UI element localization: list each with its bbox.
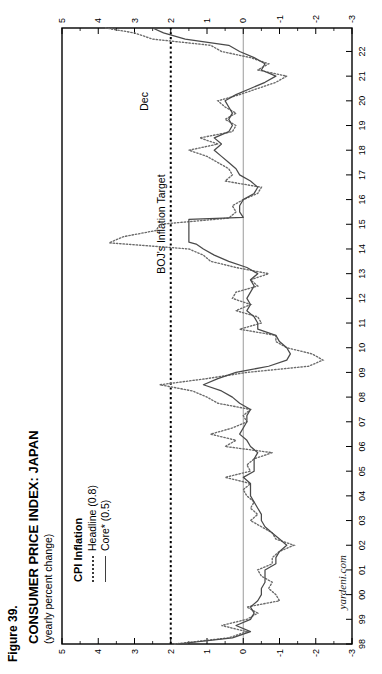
svg-text:12: 12	[357, 293, 367, 303]
svg-text:98: 98	[357, 639, 367, 649]
rotated-page-wrapper: Figure 39. CONSUMER PRICE INDEX: JAPAN (…	[0, 0, 382, 674]
series-core	[153, 28, 291, 644]
svg-text:3: 3	[130, 18, 140, 23]
svg-text:04: 04	[357, 491, 367, 501]
svg-text:09: 09	[357, 367, 367, 377]
svg-text:06: 06	[357, 441, 367, 451]
svg-text:00: 00	[357, 590, 367, 600]
figure-landscape: Figure 39. CONSUMER PRICE INDEX: JAPAN (…	[0, 0, 382, 674]
svg-text:15: 15	[357, 219, 367, 229]
svg-text:18: 18	[357, 145, 367, 155]
svg-text:4: 4	[93, 649, 103, 654]
svg-text:-2: -2	[311, 649, 321, 657]
svg-text:19: 19	[357, 121, 367, 131]
svg-text:16: 16	[357, 195, 367, 205]
svg-text:22: 22	[357, 46, 367, 56]
svg-text:01: 01	[357, 565, 367, 575]
svg-text:08: 08	[357, 392, 367, 402]
svg-text:3: 3	[130, 649, 140, 654]
svg-text:-2: -2	[311, 15, 321, 23]
svg-text:-1: -1	[275, 649, 285, 657]
svg-text:10: 10	[357, 343, 367, 353]
svg-text:1: 1	[202, 649, 212, 654]
svg-text:2: 2	[166, 18, 176, 23]
svg-text:4: 4	[93, 18, 103, 23]
svg-text:07: 07	[357, 417, 367, 427]
svg-text:21: 21	[357, 71, 367, 81]
svg-text:11: 11	[357, 318, 367, 327]
series-headline	[106, 28, 324, 644]
svg-text:20: 20	[357, 96, 367, 106]
svg-text:-3: -3	[347, 15, 357, 23]
svg-text:-1: -1	[275, 15, 285, 23]
svg-text:2: 2	[166, 649, 176, 654]
svg-text:0: 0	[238, 18, 248, 23]
svg-text:17: 17	[357, 170, 367, 180]
svg-text:1: 1	[202, 18, 212, 23]
svg-text:03: 03	[357, 516, 367, 526]
svg-text:5: 5	[57, 18, 67, 23]
svg-text:-3: -3	[347, 649, 357, 657]
svg-text:05: 05	[357, 466, 367, 476]
svg-text:99: 99	[357, 614, 367, 624]
svg-text:02: 02	[357, 540, 367, 550]
svg-text:14: 14	[357, 244, 367, 254]
svg-text:13: 13	[357, 269, 367, 279]
chart-plot-area: -3-3-2-2-1-10011223344559899000102030405…	[0, 0, 382, 674]
svg-text:5: 5	[57, 649, 67, 654]
svg-text:0: 0	[238, 649, 248, 654]
